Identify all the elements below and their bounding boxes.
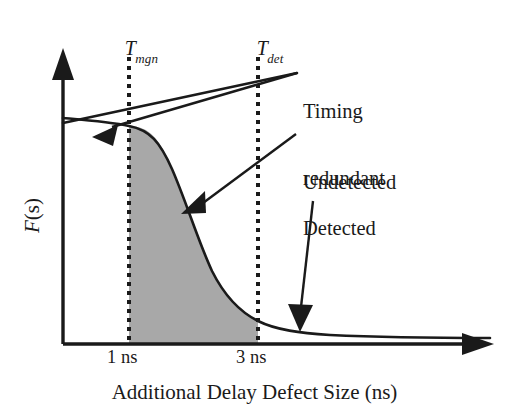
y-axis-title: F(s) [0,186,66,266]
annotation-timing-redundant-line1: Timing [303,100,385,122]
undetected-shaded-region [129,126,258,344]
threshold-label-tmgn: Tmgn [104,16,159,84]
threshold-label-tdet: Tdet [236,16,285,84]
undetected-leader [181,134,296,214]
threshold-label-tdet-subscript: det [267,51,283,66]
x-axis-arrowhead [462,333,494,355]
annotation-detected-line1: Detected [303,217,376,239]
annotation-detected: Detected [303,173,376,284]
timing-redundant-arrowhead [92,125,118,146]
x-tick-label-3ns: 3 ns [236,348,266,368]
detected-arrowhead [288,304,313,332]
y-axis-arrowhead [52,48,74,80]
x-tick-label-1ns: 1 ns [107,348,137,368]
y-axis-title-base: F [20,220,44,233]
threshold-label-tmgn-subscript: mgn [135,51,158,66]
y-axis-title-arg: (s) [20,198,44,220]
x-axis-title: Additional Delay Defect Size (ns) [0,381,509,404]
figure-root: Tmgn Tdet Timing redundant Undetected De… [0,0,509,418]
